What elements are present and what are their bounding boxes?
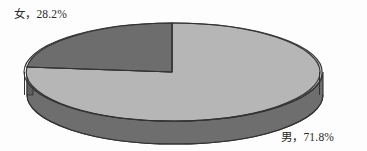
pie-label-female: 女，28.2% bbox=[14, 7, 67, 21]
pie-chart-figure: 女，28.2% 男，71.8% bbox=[0, 0, 367, 151]
pie-label-male: 男，71.8% bbox=[281, 130, 334, 144]
pie-slice-female bbox=[27, 23, 172, 72]
pie-chart-canvas bbox=[0, 0, 367, 151]
